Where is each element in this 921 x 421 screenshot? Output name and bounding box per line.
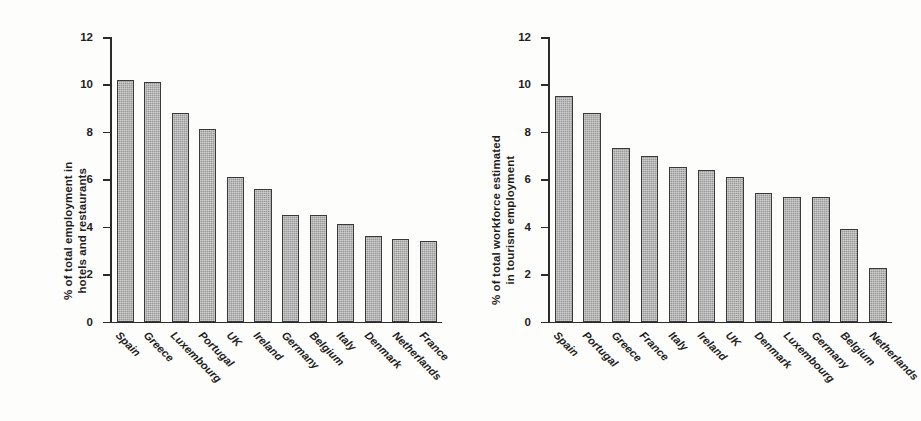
bar-slot <box>387 37 415 322</box>
bar-luxembourg <box>783 197 801 321</box>
y-axis-title-left-line1: % of total employment in <box>62 162 76 301</box>
bar-slot <box>112 37 140 322</box>
y-tick-label-right-0: 0 <box>525 316 531 328</box>
x-tick-label-italy: Italy <box>667 329 691 353</box>
y-tick-left-0: 0 <box>103 322 110 324</box>
bar-slot <box>249 37 277 322</box>
bar-slot <box>806 37 835 322</box>
y-tick-label-left-4: 4 <box>87 221 93 233</box>
chart-right-workforce-tourism: % of total workforce estimated in touris… <box>460 0 921 421</box>
bar-spain <box>555 96 573 321</box>
bar-germany <box>812 197 830 321</box>
bar-belgium <box>840 229 858 321</box>
y-axis-title-left: % of total employment in hotels and rest… <box>62 162 89 301</box>
bar-slot <box>550 37 579 322</box>
bar-series-left <box>112 37 443 322</box>
y-tick-left-12: 12 <box>103 37 110 39</box>
bar-spain <box>117 80 134 322</box>
bar-slot <box>664 37 693 322</box>
bar-netherlands <box>869 268 887 321</box>
bar-slot <box>332 37 360 322</box>
bar-slot <box>359 37 387 322</box>
y-tick-right-2: 2 <box>541 274 548 276</box>
y-axis-title-right-line2: in tourism employment <box>504 135 518 305</box>
x-tick-label-ireland: Ireland <box>695 329 729 363</box>
x-tick-label-spain: Spain <box>113 329 143 359</box>
bar-slot <box>167 37 195 322</box>
figure-page: % of total employment in hotels and rest… <box>0 0 921 421</box>
y-tick-label-left-10: 10 <box>80 78 93 90</box>
x-tick-label-uk: UK <box>224 329 244 349</box>
chart-left-employment-hotels-restaurants: % of total employment in hotels and rest… <box>0 0 470 421</box>
y-tick-label-right-10: 10 <box>518 78 531 90</box>
bar-luxembourg <box>172 113 189 322</box>
y-tick-right-6: 6 <box>541 179 548 181</box>
x-axis-line-right <box>548 322 892 324</box>
bar-slot <box>635 37 664 322</box>
y-tick-label-left-8: 8 <box>87 126 93 138</box>
bar-slot <box>222 37 250 322</box>
bar-ireland <box>698 170 716 322</box>
bar-uk <box>726 177 744 322</box>
y-tick-right-8: 8 <box>541 132 548 134</box>
bar-uk <box>227 177 244 322</box>
y-tick-left-6: 6 <box>103 179 110 181</box>
bar-netherlands <box>392 239 409 322</box>
bar-denmark <box>755 193 773 321</box>
bar-denmark <box>365 236 382 321</box>
y-tick-right-12: 12 <box>541 37 548 39</box>
y-tick-left-2: 2 <box>103 274 110 276</box>
bar-slot <box>415 37 443 322</box>
bar-portugal <box>583 113 601 322</box>
y-axis-title-right: % of total workforce estimated in touris… <box>490 135 517 305</box>
x-axis-line-left <box>110 322 442 324</box>
y-tick-label-right-6: 6 <box>525 173 531 185</box>
bar-portugal <box>199 129 216 321</box>
bar-slot <box>692 37 721 322</box>
bar-series-right <box>550 37 893 322</box>
bar-slot <box>139 37 167 322</box>
bar-ireland <box>254 189 271 322</box>
bar-france <box>641 156 659 322</box>
bar-slot <box>721 37 750 322</box>
x-tick-label-uk: UK <box>724 329 744 349</box>
y-tick-label-left-12: 12 <box>80 31 93 43</box>
bar-slot <box>749 37 778 322</box>
bar-slot <box>864 37 893 322</box>
y-tick-label-right-12: 12 <box>518 31 531 43</box>
y-tick-left-4: 4 <box>103 227 110 229</box>
bar-slot <box>277 37 305 322</box>
x-tick-label-italy: Italy <box>335 329 359 353</box>
bar-germany <box>282 215 299 322</box>
bar-slot <box>778 37 807 322</box>
bar-slot <box>194 37 222 322</box>
plot-area-right: 121086420 <box>548 37 892 323</box>
bar-italy <box>337 224 354 321</box>
bar-slot <box>835 37 864 322</box>
y-tick-right-10: 10 <box>541 84 548 86</box>
bar-greece <box>144 82 161 321</box>
plot-area-left: 121086420 <box>110 37 442 323</box>
bar-slot <box>607 37 636 322</box>
y-axis-title-right-line1: % of total workforce estimated <box>490 135 504 305</box>
bar-slot <box>304 37 332 322</box>
bar-slot <box>578 37 607 322</box>
y-tick-right-4: 4 <box>541 227 548 229</box>
bar-france <box>420 241 437 322</box>
y-tick-label-right-8: 8 <box>525 126 531 138</box>
x-tick-label-netherlands: Netherlands <box>867 329 920 382</box>
y-tick-right-0: 0 <box>541 322 548 324</box>
y-tick-label-left-0: 0 <box>87 316 93 328</box>
bar-greece <box>612 148 630 321</box>
x-tick-label-ireland: Ireland <box>252 329 286 363</box>
bar-belgium <box>310 215 327 322</box>
x-tick-label-spain: Spain <box>552 329 582 359</box>
x-tick-label-france: France <box>638 329 672 363</box>
y-tick-label-right-2: 2 <box>525 268 531 280</box>
y-tick-label-right-4: 4 <box>525 221 531 233</box>
y-tick-label-left-2: 2 <box>87 268 93 280</box>
y-tick-left-10: 10 <box>103 84 110 86</box>
bar-italy <box>669 167 687 321</box>
y-tick-label-left-6: 6 <box>87 173 93 185</box>
y-tick-left-8: 8 <box>103 132 110 134</box>
